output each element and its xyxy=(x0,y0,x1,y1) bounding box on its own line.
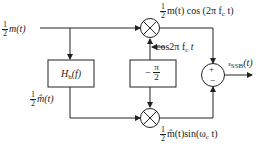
summer-minus-sign: − xyxy=(210,76,215,85)
top-product-label: 12m(t) cos (2π fc t) xyxy=(160,3,233,20)
bottom-product-line xyxy=(160,87,214,118)
hilbert-output-line xyxy=(70,87,140,118)
carrier-label: cos2π fc t xyxy=(156,42,194,54)
summer-plus-sign: + xyxy=(209,65,214,74)
hilbert-output-label: 12m̂(t) xyxy=(30,91,54,108)
top-multiplier xyxy=(141,19,160,38)
bottom-product-label: 12m̂(t)sin(ωc t) xyxy=(160,126,218,143)
bottom-multiplier xyxy=(141,109,160,128)
phase-shift-label: − π2 xyxy=(130,63,176,82)
hilbert-block-label: Hh(f) xyxy=(48,68,94,81)
input-label: 12m(t) xyxy=(2,21,26,38)
output-label: sSSB(t) xyxy=(228,58,253,70)
